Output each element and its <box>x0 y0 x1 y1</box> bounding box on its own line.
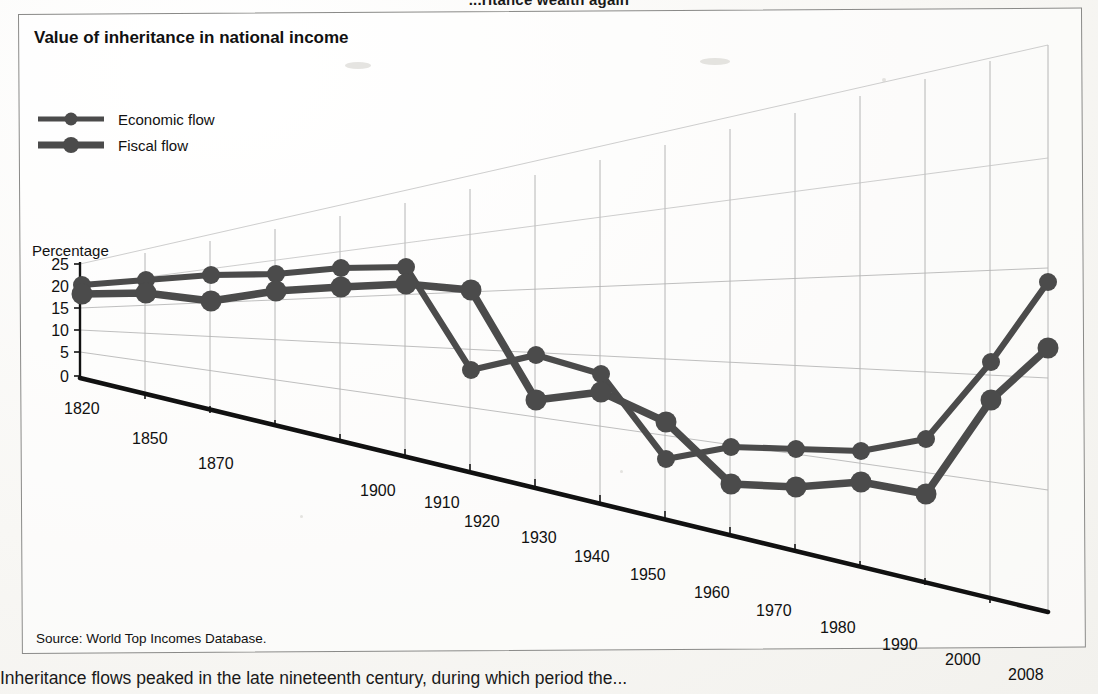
y-axis-caption: Percentage <box>32 242 109 259</box>
scan-speckle <box>882 78 886 82</box>
body-caption: Inheritance flows peaked in the late nin… <box>0 668 1098 689</box>
source-note: Source: World Top Incomes Database. <box>36 631 267 646</box>
legend-label-economic-flow: Economic flow <box>118 111 215 128</box>
legend-swatch-fiscal-flow <box>38 136 104 154</box>
scan-speckle <box>345 62 371 69</box>
legend-label-fiscal-flow: Fiscal flow <box>118 137 188 154</box>
legend-item-economic-flow[interactable]: Economic flow <box>38 106 215 132</box>
legend-swatch-economic-flow <box>38 110 104 128</box>
chart-legend: Economic flow Fiscal flow <box>38 106 215 158</box>
scan-speckle <box>300 515 303 518</box>
chart-title: Value of inheritance in national income <box>34 28 349 48</box>
xtick-2000: 2000 <box>945 651 981 668</box>
scan-speckle <box>700 58 730 65</box>
scan-speckle <box>620 470 623 473</box>
legend-item-fiscal-flow[interactable]: Fiscal flow <box>38 132 215 158</box>
